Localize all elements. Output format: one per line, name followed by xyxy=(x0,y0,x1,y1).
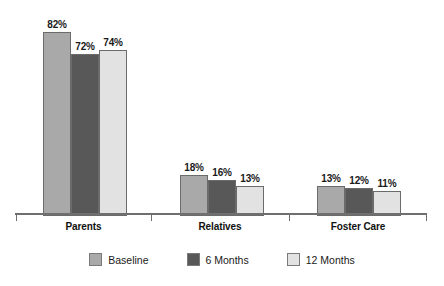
bar xyxy=(180,175,208,216)
bar-value-label: 11% xyxy=(367,178,407,189)
legend-swatch-icon xyxy=(287,253,300,266)
legend-item-12-months: 12 Months xyxy=(287,253,355,266)
bar xyxy=(236,186,264,216)
bar-column: 16% xyxy=(208,10,236,216)
bar-value-label: 13% xyxy=(230,173,270,184)
bar-chart: 82% 72% 74% 18% 16% 13% xyxy=(0,0,444,286)
bar xyxy=(345,188,373,216)
plot-area: 82% 72% 74% 18% 16% 13% xyxy=(15,10,427,216)
legend-swatch-icon xyxy=(187,253,200,266)
bar-column: 11% xyxy=(373,10,401,216)
category-label-foster-care: Foster Care xyxy=(289,221,427,232)
legend-label: 6 Months xyxy=(206,254,249,266)
category-label-relatives: Relatives xyxy=(151,221,289,232)
legend-swatch-icon xyxy=(89,253,102,266)
bar-group-parents: 82% 72% 74% xyxy=(43,10,127,216)
x-axis-line xyxy=(15,213,427,215)
bar xyxy=(208,180,236,216)
bar-group-foster-care: 13% 12% 11% xyxy=(317,10,401,216)
legend-item-6-months: 6 Months xyxy=(187,253,249,266)
legend-label: 12 Months xyxy=(306,254,355,266)
chart-legend: Baseline 6 Months 12 Months xyxy=(0,253,444,266)
bar xyxy=(43,32,71,216)
bar-column: 18% xyxy=(180,10,208,216)
bar xyxy=(99,50,127,216)
legend-label: Baseline xyxy=(108,254,148,266)
legend-item-baseline: Baseline xyxy=(89,253,148,266)
bar xyxy=(317,186,345,216)
bar-column: 74% xyxy=(99,10,127,216)
bar-group-relatives: 18% 16% 13% xyxy=(180,10,264,216)
bar-column: 13% xyxy=(236,10,264,216)
category-label-parents: Parents xyxy=(16,221,151,232)
bar-value-label: 74% xyxy=(93,37,133,48)
bar xyxy=(71,54,99,216)
